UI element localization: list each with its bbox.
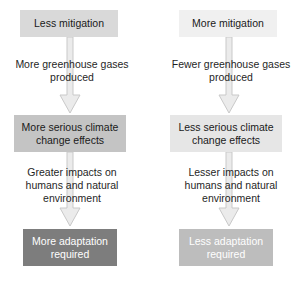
box-more-mitigation: More mitigation [179,10,277,37]
box-more-serious-climate-change-effects-label: More serious climate change effects [14,121,126,146]
caption-line: humans and natural [159,179,302,192]
box-text-line: change effects [192,134,260,146]
box-text-line: Less adaptation [189,235,263,247]
flow-diagram: Less mitigation More greenhouse gases pr… [0,0,302,283]
caption-line: humans and natural [0,179,144,192]
caption-more-greenhouse-gases: More greenhouse gases produced [0,58,144,84]
box-text-line: More serious climate [22,121,119,133]
caption-line: Fewer greenhouse gases [159,58,302,71]
box-less-mitigation: Less mitigation [20,10,118,37]
box-more-adaptation-required: More adaptation required [23,229,117,266]
box-less-serious-climate-change-effects: Less serious climate change effects [170,115,282,152]
box-more-serious-climate-change-effects: More serious climate change effects [14,115,126,152]
caption-line: environment [159,192,302,205]
caption-lesser-impacts: Lesser impacts on humans and natural env… [159,166,302,205]
caption-greater-impacts: Greater impacts on humans and natural en… [0,166,144,205]
box-text-line: More adaptation [32,235,108,247]
box-text-line: required [207,248,246,260]
caption-line: produced [0,71,144,84]
flow-column-more-mitigation: More mitigation Fewer greenhouse gases p… [151,0,302,283]
caption-line: Greater impacts on [0,166,144,179]
caption-line: More greenhouse gases [0,58,144,71]
flow-column-less-mitigation: Less mitigation More greenhouse gases pr… [0,0,151,283]
caption-line: produced [159,71,302,84]
caption-fewer-greenhouse-gases: Fewer greenhouse gases produced [159,58,302,84]
box-text-line: change effects [36,134,104,146]
caption-line: Lesser impacts on [159,166,302,179]
box-text-line: Less serious climate [178,121,273,133]
caption-line: environment [0,192,144,205]
box-text-line: required [51,248,90,260]
box-more-adaptation-required-label: More adaptation required [23,235,117,260]
box-more-mitigation-label: More mitigation [179,17,277,29]
box-less-mitigation-label: Less mitigation [20,17,118,29]
box-less-serious-climate-change-effects-label: Less serious climate change effects [170,121,282,146]
box-less-adaptation-required: Less adaptation required [179,229,273,266]
box-less-adaptation-required-label: Less adaptation required [179,235,273,260]
